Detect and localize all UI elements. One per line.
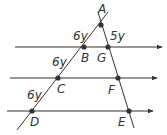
labels-group: ABGCFDE6y5y6y6y [27, 2, 126, 129]
point-c [55, 75, 60, 80]
point-label-b: B [81, 51, 89, 65]
segment-length-label: 6y [52, 55, 68, 69]
point-label-d: D [30, 115, 39, 129]
segment-length-label: 5y [110, 29, 126, 43]
geometry-diagram: ABGCFDE6y5y6y6y [0, 0, 167, 135]
point-b [81, 44, 86, 49]
point-label-g: G [97, 51, 106, 65]
point-label-a: A [97, 2, 106, 16]
point-e [126, 108, 131, 113]
segment-length-label: 6y [73, 29, 89, 43]
point-d [29, 108, 34, 113]
point-label-c: C [57, 82, 66, 96]
segment-length-label: 6y [27, 88, 43, 102]
point-label-e: E [118, 115, 126, 129]
point-label-f: F [108, 83, 116, 97]
point-a [98, 22, 103, 27]
point-f [115, 75, 120, 80]
point-g [105, 44, 110, 49]
